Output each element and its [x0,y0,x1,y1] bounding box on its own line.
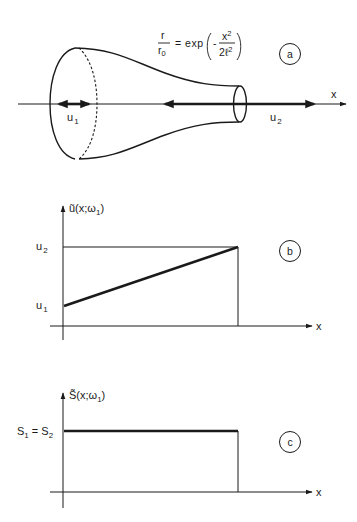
horn-diagram-figure: x u1 u2 r r0 = exp - x2 2ℓ2 [0,0,357,522]
svg-text:r: r [161,29,165,41]
svg-text:-: - [213,37,217,49]
u1-label: u1 [67,111,79,126]
x-axis-label-a: x [331,88,337,100]
velocity-ramp-line [64,247,238,306]
panel-a-horn: x u1 u2 r r0 = exp - x2 2ℓ2 [18,29,346,159]
horn-top-profile [75,48,239,86]
x-axis-label-b: x [316,320,322,332]
panel-badge-c: c [280,432,301,453]
tick-u2: u2 [36,240,48,255]
panel-c-area-plot: x S̃(x;ω1) S1 = S2 c [17,389,322,508]
panel-badge-a: a [280,44,301,65]
profile-equation: r r0 = exp - x2 2ℓ2 [158,29,241,60]
svg-text:r0: r0 [158,44,166,58]
svg-text:c: c [287,436,292,448]
svg-text:exp: exp [185,37,204,49]
svg-text:=: = [175,37,181,49]
u2-label: u2 [270,111,282,126]
panel-b-velocity-plot: x ũ(x;ω1) u2 u1 b [36,202,322,340]
y-axis-label-c: S̃(x;ω1) [69,389,105,404]
tick-u1: u1 [36,299,48,314]
panel-badge-b: b [280,241,301,262]
svg-text:b: b [287,245,293,257]
svg-text:a: a [287,48,293,60]
x-axis-label-c: x [316,486,322,498]
y-axis-label-b: ũ(x;ω1) [69,202,104,217]
horn-bottom-profile [79,122,239,159]
svg-text:x2: x2 [222,29,231,42]
tick-s1-equals-s2: S1 = S2 [17,425,54,440]
svg-text:2ℓ2: 2ℓ2 [219,45,232,58]
